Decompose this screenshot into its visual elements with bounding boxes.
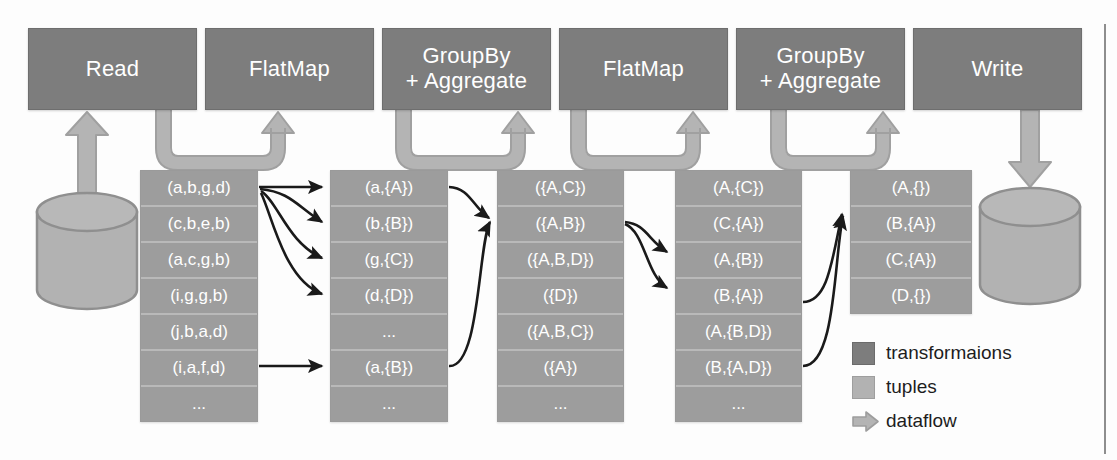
tuple-cell: ... xyxy=(676,387,801,421)
tuple-cell: (b,{B}) xyxy=(331,207,447,243)
operator-label-read: Read xyxy=(86,57,139,82)
dataflow-arrow-write-to-store xyxy=(1009,110,1051,187)
tuple-cell: (C,{A}) xyxy=(676,207,801,243)
transformations-swatch-icon xyxy=(852,342,875,365)
tuple-cell: (i,g,g,b) xyxy=(141,279,257,315)
dataflow-arrow-flatmap2-to-groupby2 xyxy=(771,110,899,170)
tuple-cell: (D,{}) xyxy=(851,279,971,313)
tuple-cell: (A,{B,D}) xyxy=(676,315,801,351)
tuple-cell: ({D}) xyxy=(498,279,623,315)
tuple-cell: ({A,C}) xyxy=(498,171,623,207)
input-datastore-icon xyxy=(37,193,137,309)
dataflow-diagram: Read FlatMap GroupBy + Aggregate FlatMap… xyxy=(0,0,1117,460)
tuple-cell: ... xyxy=(498,387,623,421)
operator-label-flatmap-1: FlatMap xyxy=(249,57,330,82)
tuple-arrow-group-groupby-1 xyxy=(449,187,490,366)
tuple-cell: ({A}) xyxy=(498,351,623,387)
dataflow-arrow-read-to-flatmap1 xyxy=(156,110,294,170)
operator-label-write: Write xyxy=(972,57,1024,82)
tuple-cell: (a,{A}) xyxy=(331,171,447,207)
tuples-swatch-icon xyxy=(852,376,875,399)
tuple-arrow-group-flatmap-1 xyxy=(259,187,322,294)
tuple-cell: (B,{A}) xyxy=(851,207,971,243)
dataflow-arrow-store-to-read xyxy=(66,112,108,195)
legend: transformaions tuples dataflow xyxy=(852,336,1082,438)
tuple-cell: (A,{}) xyxy=(851,171,971,207)
tuple-column-flatmap-1[interactable]: (a,{A}) (b,{B}) (g,{C}) (d,{D}) ... (a,{… xyxy=(330,170,448,422)
tuple-cell: (C,{A}) xyxy=(851,243,971,279)
tuple-cell: (B,{A}) xyxy=(676,279,801,315)
operator-label-flatmap-2: FlatMap xyxy=(603,57,684,82)
tuple-cell: (A,{C}) xyxy=(676,171,801,207)
tuple-cell: (a,c,g,b) xyxy=(141,243,257,279)
tuple-column-flatmap-2[interactable]: (A,{C}) (C,{A}) (A,{B}) (B,{A}) (A,{B,D}… xyxy=(675,170,802,422)
tuple-cell: (A,{B}) xyxy=(676,243,801,279)
legend-label-transformations: transformaions xyxy=(886,342,1012,364)
dataflow-arrow-groupby1-to-flatmap2 xyxy=(571,110,709,170)
tuple-cell: (B,{A,D}) xyxy=(676,351,801,387)
tuple-column-input[interactable]: (a,b,g,d) (c,b,e,b) (a,c,g,b) (i,g,g,b) … xyxy=(140,170,258,422)
tuple-cell: (g,{C}) xyxy=(331,243,447,279)
legend-item-transformations: transformaions xyxy=(852,336,1082,370)
tuple-cell: ({A,B}) xyxy=(498,207,623,243)
legend-label-dataflow: dataflow xyxy=(886,410,957,432)
tuple-cell: (d,{D}) xyxy=(331,279,447,315)
dataflow-arrow-flatmap1-to-groupby1 xyxy=(396,110,534,170)
tuple-arrow-group-groupby-2 xyxy=(803,214,843,366)
tuple-cell: ... xyxy=(331,315,447,351)
dataflow-arrow-icon xyxy=(852,410,880,433)
tuple-cell: (j,b,a,d) xyxy=(141,315,257,351)
tuple-cell: (a,b,g,d) xyxy=(141,171,257,207)
operator-box-flatmap-1[interactable]: FlatMap xyxy=(205,28,374,110)
legend-item-tuples: tuples xyxy=(852,370,1082,404)
operator-box-write[interactable]: Write xyxy=(913,28,1082,110)
operator-box-flatmap-2[interactable]: FlatMap xyxy=(559,28,728,110)
output-datastore-icon xyxy=(980,188,1080,304)
tuple-cell: ... xyxy=(331,387,447,421)
tuple-cell: ({A,B,D}) xyxy=(498,243,623,279)
tuple-cell: ... xyxy=(141,387,257,421)
operator-box-groupby-1[interactable]: GroupBy + Aggregate xyxy=(382,28,551,110)
legend-label-tuples: tuples xyxy=(886,376,937,398)
page-right-rule xyxy=(1104,24,1106,454)
tuple-arrow-group-flatmap-2 xyxy=(625,222,667,288)
legend-item-dataflow: dataflow xyxy=(852,404,1082,438)
operator-box-read[interactable]: Read xyxy=(28,28,197,110)
tuple-cell: (c,b,e,b) xyxy=(141,207,257,243)
operator-label-groupby-2: GroupBy + Aggregate xyxy=(760,44,881,94)
tuple-column-groupby-2[interactable]: (A,{}) (B,{A}) (C,{A}) (D,{}) xyxy=(850,170,972,314)
tuple-cell: (i,a,f,d) xyxy=(141,351,257,387)
tuple-cell: (a,{B}) xyxy=(331,351,447,387)
operator-label-groupby-1: GroupBy + Aggregate xyxy=(406,44,527,94)
operator-box-groupby-2[interactable]: GroupBy + Aggregate xyxy=(736,28,905,110)
tuple-column-groupby-1[interactable]: ({A,C}) ({A,B}) ({A,B,D}) ({D}) ({A,B,C}… xyxy=(497,170,624,422)
tuple-cell: ({A,B,C}) xyxy=(498,315,623,351)
